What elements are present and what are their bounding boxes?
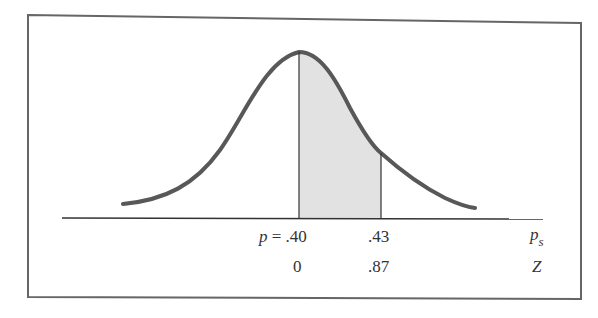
x-axis	[62, 218, 543, 219]
ps-axis-label: ps	[529, 225, 544, 249]
value-z-label: .87	[368, 257, 390, 276]
value-p-label: .43	[368, 227, 389, 246]
normal-distribution-figure: p = .40 .43 ps 0 .87 Z	[0, 0, 598, 318]
mean-z-label: 0	[293, 257, 302, 276]
z-axis-label: Z	[532, 257, 542, 276]
mean-p-label: p = .40	[258, 227, 307, 246]
